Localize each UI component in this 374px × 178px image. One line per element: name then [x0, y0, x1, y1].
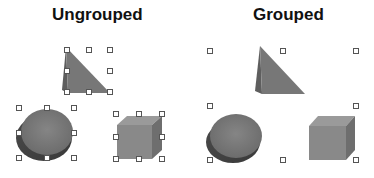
grouped-cube-shape[interactable]: [309, 116, 355, 160]
ungrouped-panel: [16, 47, 165, 162]
cylinder-shape[interactable]: [16, 109, 73, 161]
cube-shape[interactable]: [117, 116, 162, 159]
grouped-cylinder-shape[interactable]: [206, 114, 262, 163]
grouped-panel[interactable]: [206, 46, 359, 163]
